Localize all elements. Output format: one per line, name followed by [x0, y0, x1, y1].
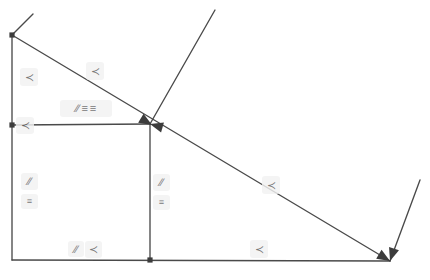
parallel-mark-center-vertical[interactable]: ∕∕: [153, 174, 170, 191]
point-top-left[interactable]: [9, 32, 14, 37]
angle-mark-left-middle[interactable]: ≺: [16, 117, 34, 134]
angle-mark-bottom-right-glyph-0: ≺: [255, 244, 264, 255]
equal-mark-left-vertical[interactable]: ≡: [21, 194, 38, 209]
point-left-middle[interactable]: [9, 122, 14, 127]
parallel-mark-center-vertical-glyph-0: ∕∕: [160, 177, 164, 188]
arrowhead-center-right: [138, 114, 154, 130]
ray-top-left-stub[interactable]: [12, 14, 33, 35]
mark-group-mid-horizontal-glyph-2: ≡: [90, 103, 96, 114]
angle-mark-bottom-right[interactable]: ≺: [250, 240, 268, 258]
equal-mark-left-vertical-glyph-0: ≡: [27, 197, 32, 206]
angle-mark-diagonal-upper[interactable]: ≺: [86, 62, 104, 80]
angle-mark-left-middle-glyph-0: ≺: [21, 120, 30, 131]
segment-main-diagonal[interactable]: [12, 35, 390, 261]
point-bottom-center[interactable]: [147, 257, 152, 262]
angle-mark-bottom-left-glyph-0: ≺: [89, 244, 98, 255]
parallel-mark-bottom[interactable]: ∕∕: [68, 241, 84, 257]
angle-mark-diagonal-lower[interactable]: ≺: [262, 176, 280, 194]
angle-mark-left-upper-glyph-0: ≺: [25, 72, 34, 83]
segments-layer: [12, 10, 420, 261]
mark-group-mid-horizontal[interactable]: ∕∕≡≡: [60, 100, 112, 117]
geometry-canvas[interactable]: ≺≺∕∕≡≡≺∕∕≡∕∕≡≺∕∕≺≺: [0, 0, 430, 280]
segment-bottom-horizontal[interactable]: [12, 260, 390, 261]
geometry-figure-svg[interactable]: [0, 0, 430, 280]
parallel-mark-left-vertical[interactable]: ∕∕: [21, 173, 38, 190]
parallel-mark-bottom-glyph-0: ∕∕: [74, 244, 78, 255]
angle-mark-left-upper[interactable]: ≺: [20, 68, 38, 86]
parallel-mark-left-vertical-glyph-0: ∕∕: [28, 176, 32, 187]
points-layer: [9, 32, 152, 262]
angle-mark-diagonal-upper-glyph-0: ≺: [91, 66, 100, 77]
angle-mark-bottom-left[interactable]: ≺: [85, 241, 102, 258]
ray-upper-right[interactable]: [150, 10, 215, 124]
mark-group-mid-horizontal-glyph-0: ∕∕: [76, 103, 80, 114]
equal-mark-center-vertical[interactable]: ≡: [153, 195, 170, 210]
equal-mark-center-vertical-glyph-0: ≡: [159, 198, 164, 207]
angle-mark-diagonal-lower-glyph-0: ≺: [267, 180, 276, 191]
mark-group-mid-horizontal-glyph-1: ≡: [81, 103, 87, 114]
